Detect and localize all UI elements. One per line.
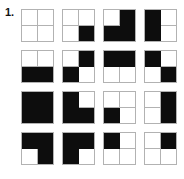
pattern-quadrant-bottom-left xyxy=(22,149,38,165)
pattern-quadrant-bottom-right xyxy=(79,149,95,165)
pattern-quadrant-top-right xyxy=(161,133,177,149)
pattern-quadrant-bottom-left xyxy=(63,26,79,42)
pattern-quadrant-top-right xyxy=(120,92,136,108)
pattern-grid[interactable] xyxy=(62,50,95,83)
pattern-quadrant-top-left xyxy=(22,51,38,67)
pattern-quadrant-bottom-left xyxy=(145,26,161,42)
pattern-quadrant-top-left xyxy=(63,133,79,149)
pattern-quadrant-top-left xyxy=(145,133,161,149)
pattern-grid[interactable] xyxy=(21,50,54,83)
pattern-quadrant-bottom-right xyxy=(38,149,54,165)
pattern-grid[interactable] xyxy=(62,9,95,42)
question-number-label: 1. xyxy=(5,6,14,18)
pattern-quadrant-top-right xyxy=(79,92,95,108)
pattern-quadrant-bottom-right xyxy=(38,26,54,42)
pattern-grid[interactable] xyxy=(144,132,177,165)
pattern-quadrant-bottom-left xyxy=(104,149,120,165)
pattern-grid[interactable] xyxy=(103,91,136,124)
pattern-quadrant-bottom-right xyxy=(161,67,177,83)
pattern-quadrant-bottom-right xyxy=(79,26,95,42)
pattern-quadrant-top-left xyxy=(145,10,161,26)
pattern-quadrant-top-left xyxy=(104,92,120,108)
pattern-quadrant-bottom-right xyxy=(120,149,136,165)
pattern-grid[interactable] xyxy=(144,50,177,83)
pattern-quadrant-top-right xyxy=(120,133,136,149)
pattern-quadrant-bottom-right xyxy=(79,108,95,124)
pattern-quadrant-top-right xyxy=(161,10,177,26)
pattern-quadrant-top-left xyxy=(63,92,79,108)
pattern-quadrant-top-left xyxy=(104,10,120,26)
pattern-quadrant-bottom-left xyxy=(63,67,79,83)
pattern-quadrant-bottom-right xyxy=(120,26,136,42)
pattern-quadrant-top-left xyxy=(22,92,38,108)
pattern-quadrant-top-right xyxy=(38,133,54,149)
pattern-quadrant-top-left xyxy=(63,10,79,26)
pattern-grid[interactable] xyxy=(21,91,54,124)
pattern-quadrant-top-left xyxy=(145,92,161,108)
pattern-quadrant-bottom-left xyxy=(22,67,38,83)
pattern-quadrant-top-right xyxy=(161,92,177,108)
pattern-quadrant-bottom-left xyxy=(145,67,161,83)
pattern-quadrant-bottom-left xyxy=(145,149,161,165)
pattern-quadrant-bottom-left xyxy=(22,26,38,42)
pattern-quadrant-top-right xyxy=(120,10,136,26)
pattern-grid[interactable] xyxy=(103,50,136,83)
pattern-quadrant-bottom-right xyxy=(161,108,177,124)
pattern-quadrant-top-left xyxy=(22,10,38,26)
pattern-quadrant-top-right xyxy=(161,51,177,67)
pattern-quadrant-bottom-left xyxy=(22,108,38,124)
pattern-quadrant-top-left xyxy=(22,133,38,149)
pattern-quadrant-bottom-left xyxy=(104,26,120,42)
pattern-quadrant-bottom-right xyxy=(38,67,54,83)
pattern-quadrant-bottom-right xyxy=(79,67,95,83)
pattern-quadrant-top-right xyxy=(79,10,95,26)
pattern-grid[interactable] xyxy=(21,132,54,165)
pattern-quadrant-bottom-right xyxy=(38,108,54,124)
pattern-grid[interactable] xyxy=(144,91,177,124)
pattern-quadrant-bottom-right xyxy=(161,149,177,165)
pattern-quadrant-top-left xyxy=(145,51,161,67)
pattern-grid[interactable] xyxy=(103,9,136,42)
pattern-quadrant-bottom-right xyxy=(161,26,177,42)
pattern-grid[interactable] xyxy=(62,132,95,165)
pattern-quadrant-bottom-left xyxy=(104,108,120,124)
pattern-quadrant-top-right xyxy=(79,51,95,67)
pattern-quadrant-bottom-left xyxy=(63,108,79,124)
pattern-quadrant-top-right xyxy=(79,133,95,149)
pattern-quadrant-top-right xyxy=(38,51,54,67)
pattern-quadrant-top-left xyxy=(104,133,120,149)
pattern-quadrant-bottom-left xyxy=(104,67,120,83)
pattern-quadrant-bottom-left xyxy=(145,108,161,124)
pattern-quadrant-top-right xyxy=(120,51,136,67)
pattern-grid[interactable] xyxy=(103,132,136,165)
pattern-quadrant-top-left xyxy=(63,51,79,67)
pattern-quadrant-bottom-right xyxy=(120,108,136,124)
pattern-quadrant-top-right xyxy=(38,92,54,108)
pattern-grid[interactable] xyxy=(21,9,54,42)
pattern-quadrant-top-left xyxy=(104,51,120,67)
pattern-grid[interactable] xyxy=(144,9,177,42)
pattern-quadrant-top-right xyxy=(38,10,54,26)
question-block: 1. xyxy=(0,0,184,179)
pattern-quadrant-bottom-right xyxy=(120,67,136,83)
pattern-quadrant-bottom-left xyxy=(63,149,79,165)
pattern-grid-matrix xyxy=(21,9,177,165)
pattern-grid[interactable] xyxy=(62,91,95,124)
